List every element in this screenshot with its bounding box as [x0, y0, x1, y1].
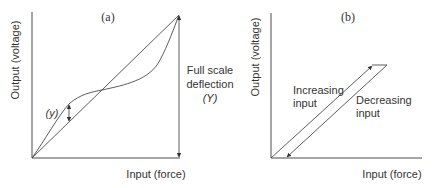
increasing-label-line2: input — [293, 97, 317, 109]
fsd-label-line3: (Y) — [203, 92, 218, 104]
ideal-line-a — [32, 15, 179, 158]
diagram-canvas: (a) Output (voltage) Input (force) Full … — [0, 0, 433, 188]
fsd-label-line2: deflection — [186, 78, 233, 90]
fsd-label-line1: Full scale — [187, 64, 233, 76]
y-axis-label-b: Output (voltage) — [249, 18, 261, 97]
x-axis-label-b: Input (force) — [362, 168, 421, 180]
increasing-label-line1: Increasing — [293, 84, 344, 96]
panel-label-b: (b) — [341, 10, 355, 24]
panel-b: (b) Output (voltage) Input (force) Incre… — [249, 10, 422, 180]
decreasing-label-line2: input — [356, 107, 380, 119]
panel-label-a: (a) — [101, 10, 114, 24]
x-axis-label-a: Input (force) — [126, 168, 185, 180]
decreasing-label-line1: Decreasing — [356, 94, 412, 106]
panel-a: (a) Output (voltage) Input (force) Full … — [9, 10, 234, 180]
deviation-label: (y) — [46, 107, 59, 119]
y-axis-label-a: Output (voltage) — [9, 21, 21, 100]
